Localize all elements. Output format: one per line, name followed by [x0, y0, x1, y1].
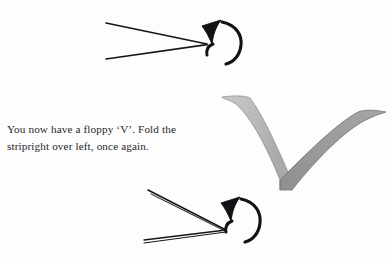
ribbon-right-arm [280, 110, 386, 190]
narrow-v-strip-lines [144, 190, 226, 243]
page-canvas: You now have a floppy ‘V’. Fold the stri… [0, 0, 391, 258]
caption-line-2: stripright over left, once again. [7, 138, 199, 155]
wedge-upper-line-inner [151, 194, 226, 232]
caption-text: You now have a floppy ‘V’. Fold the stri… [7, 121, 199, 154]
wedge-lower-line-outer [144, 230, 226, 240]
figure-floppy-v-ribbon [218, 92, 391, 190]
wedge-upper-line-outer [148, 190, 226, 230]
v-lower-line [106, 45, 207, 59]
rotation-arrow-icon [221, 197, 260, 242]
rotation-arrow-icon [202, 20, 241, 64]
ribbon-left-arm [222, 96, 288, 180]
figure-open-v-with-rotation-arrow [96, 6, 276, 78]
wedge-lower-line-inner [144, 232, 226, 243]
figure-narrow-v-with-rotation-arrow [140, 182, 285, 258]
v-upper-line [106, 23, 207, 44]
open-v-strip-lines [106, 23, 207, 59]
caption-line-1: You now have a floppy ‘V’. Fold the [7, 121, 199, 138]
